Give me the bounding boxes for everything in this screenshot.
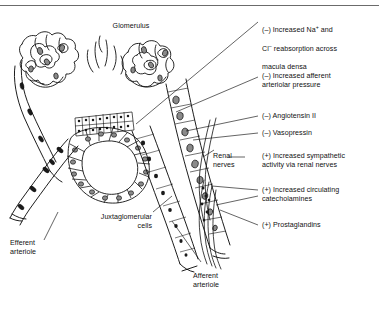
factor-prostaglandins: (+) Prostaglandins <box>262 221 378 230</box>
factor-catecholamines: (+) Increased circulating catecholamines <box>262 186 378 204</box>
macula-densa <box>75 112 134 136</box>
label-renal-nerves: Renal nerves <box>213 152 247 170</box>
factor-macula-densa-line2-pre: Cl <box>262 45 269 53</box>
afferent-arteriole-nuclei <box>172 96 218 232</box>
leader-afferent-pressure <box>176 77 258 112</box>
leader-angiotensin <box>186 116 258 131</box>
glomerular-tuft-left <box>19 32 78 87</box>
renal-nerve-bundle <box>199 118 221 269</box>
leader-vasopressin <box>193 133 258 140</box>
label-afferent-arteriole: Afferent arteriole <box>193 272 263 290</box>
leader-sympathetic <box>212 186 258 190</box>
capillary-nuclei-left <box>28 44 65 79</box>
factor-afferent-pressure: (–) Increased afferent arteriolar pressu… <box>262 72 378 90</box>
label-efferent-arteriole: Efferent arteriole <box>10 239 80 257</box>
figure-canvas: Glomerulus Juxtaglomerular cells Efferen… <box>0 0 379 312</box>
leader-efferent <box>44 212 58 240</box>
factor-macula-densa-line3: macula densa <box>262 63 307 71</box>
factor-angiotensin-ii: (–) Angiotensin II <box>262 112 378 121</box>
label-juxtaglomerular-cells: Juxtaglomerular cells <box>72 213 152 231</box>
factor-macula-densa-line1-pre: (–) Increased Na <box>262 26 316 34</box>
factor-macula-densa-line2-post: reabsorption across <box>272 45 337 53</box>
factor-macula-densa: (–) Increased Na+ and Cl– reabsorption a… <box>262 17 378 72</box>
factor-vasopressin: (–) Vasopressin <box>262 129 378 138</box>
factor-sympathetic-activity: (+) Increased sympathetic activity via r… <box>262 152 378 170</box>
factor-macula-densa-line1-post: and <box>319 26 333 34</box>
leader-catecholamines <box>216 196 258 205</box>
leader-prostaglandins <box>220 210 258 225</box>
vascular-stalk <box>87 36 123 74</box>
distal-tubule-nuclei <box>141 141 188 257</box>
distal-tubule-walls <box>136 134 195 252</box>
capillary-nuclei-right <box>131 46 169 81</box>
leader-lines <box>136 22 258 225</box>
label-glomerulus: Glomerulus <box>96 22 166 31</box>
